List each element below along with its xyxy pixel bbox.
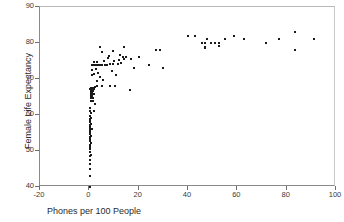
data-point [97,72,99,74]
data-point [123,46,125,48]
data-point [89,146,91,148]
y-axis-tick [35,114,39,115]
data-point [103,60,105,62]
data-point [123,58,125,60]
data-point [93,61,95,63]
data-point [96,85,98,87]
data-point [91,91,93,93]
data-point [125,56,127,58]
data-point [155,49,157,51]
data-point [120,62,122,64]
data-point [108,55,110,57]
x-axis-tick-label: 80 [271,190,301,199]
y-axis-tick [35,150,39,151]
data-point [204,47,206,49]
data-point [99,46,101,48]
data-point [204,42,206,44]
data-point [90,135,92,137]
data-point [89,168,91,170]
y-axis-tick [35,78,39,79]
data-point [89,144,91,146]
data-point [99,76,101,78]
data-point [95,68,97,70]
data-point [138,56,140,58]
data-point [112,63,114,65]
y-axis-tick-label: 40 [12,182,34,190]
data-point [187,35,189,37]
x-axis-tick-label: 0 [73,190,103,199]
data-point [159,49,161,51]
data-point [115,74,117,76]
x-axis-tick-label: 40 [172,190,202,199]
data-point [94,103,96,105]
data-point [89,120,91,122]
data-point [89,151,91,153]
data-point [89,115,91,117]
data-point [90,117,92,119]
data-point [109,85,111,87]
data-point [133,67,135,69]
data-point [89,133,91,135]
scatter-plot: 405060708090 -20020406080100 Female Life… [0,0,344,222]
data-point [113,60,115,62]
data-point [119,54,121,56]
data-point [92,100,94,102]
data-point [93,73,95,75]
data-point [90,112,92,114]
data-point [210,42,212,44]
data-point [89,163,91,165]
data-point [89,107,91,109]
data-point [93,110,95,112]
data-point [118,59,120,61]
data-point [90,154,92,156]
data-point [89,140,91,142]
data-point [109,63,111,65]
data-point [214,42,216,44]
data-point [201,42,203,44]
data-point [91,128,93,130]
y-axis-title: Female Life Expectancy [23,26,33,176]
data-point [129,89,131,91]
x-axis-tick-label: 100 [320,190,344,199]
data-point [96,80,98,82]
data-point [313,38,315,40]
plot-frame [39,6,335,186]
data-point [243,38,245,40]
data-point [148,64,150,66]
data-point [224,38,226,40]
data-point [96,61,98,63]
data-point [93,93,95,95]
data-point [265,42,267,44]
data-point [101,85,103,87]
data-point [89,159,91,161]
data-point [89,155,91,157]
data-point [91,69,93,71]
data-point [89,175,91,177]
x-axis-title: Phones per 100 People [47,206,141,216]
data-point [233,35,235,37]
data-point-layer [40,7,334,185]
data-point [102,79,104,81]
data-point [278,38,280,40]
data-point [294,31,296,33]
data-point [294,49,296,51]
y-axis-tick [35,6,39,7]
data-point [194,35,196,37]
data-point [130,58,132,60]
data-point [101,51,103,53]
data-point [206,38,208,40]
x-axis-tick-label: -20 [24,190,54,199]
data-point [117,63,119,65]
data-point [89,110,91,112]
data-point [107,57,109,59]
data-point [122,56,124,58]
data-point [114,85,116,87]
y-axis-tick-label: 90 [12,2,34,10]
data-point [92,97,94,99]
data-point [162,67,164,69]
data-point [91,95,93,97]
data-point [89,148,91,150]
data-point [218,45,220,47]
data-point [89,138,91,140]
x-axis-tick-label: 60 [221,190,251,199]
